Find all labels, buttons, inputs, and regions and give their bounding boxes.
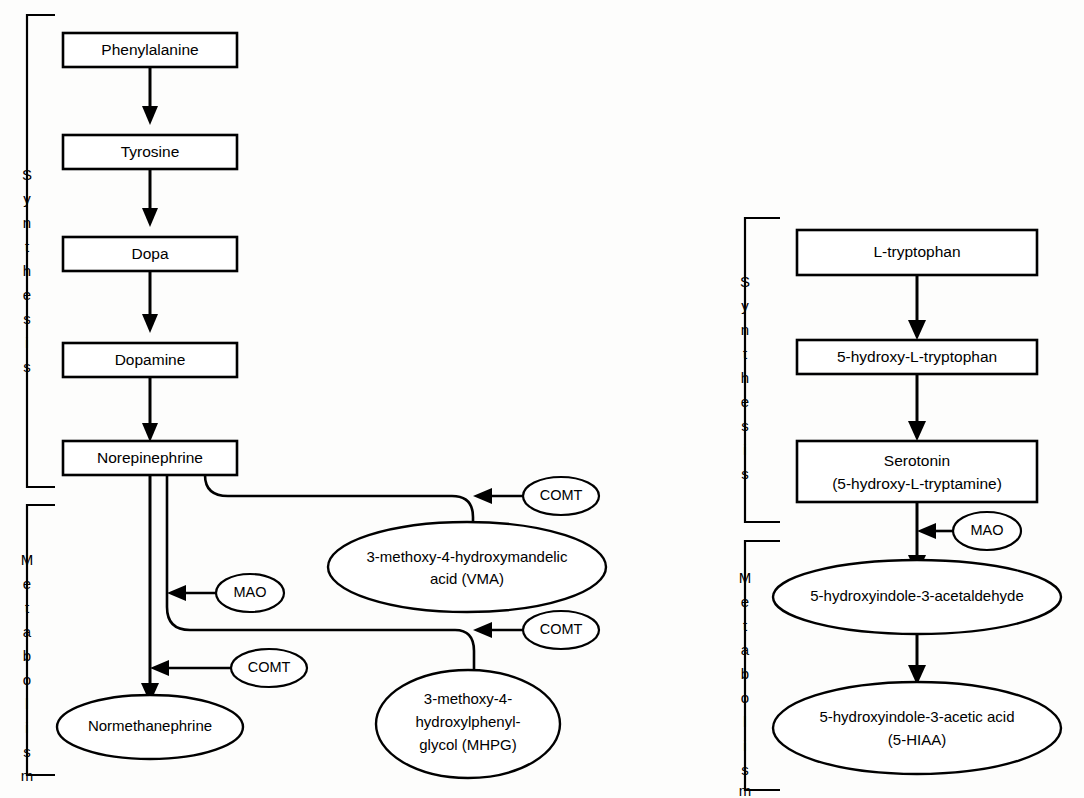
left-synthesis-letter-3: t [25, 238, 30, 255]
left-synthesis-letter-6: s [23, 310, 31, 327]
right-metabolism-letter-6: l [743, 713, 746, 730]
node-vma-label-line2: acid (VMA) [430, 570, 504, 587]
right-metabolism-letter-1: e [741, 593, 749, 610]
enzyme-comt-mhpg-label: COMT [540, 621, 583, 637]
right-synthesis-letter-0: S [740, 273, 750, 290]
node-tyrosine-label: Tyrosine [121, 143, 180, 160]
left-synthesis-letter-5: e [23, 286, 31, 303]
right-synthesis-letter-3: t [743, 345, 748, 362]
node-phenylalanine[interactable]: Phenylalanine [63, 33, 237, 67]
left-synthesis-letter-4: h [23, 262, 31, 279]
figure-canvas: S y n t h e s i s M e t a b o l i s m [0, 0, 1084, 798]
right-metabolism-letter-3: a [741, 641, 750, 658]
node-serotonin[interactable]: Serotonin (5-hydroxy-L-tryptamine) [797, 441, 1037, 502]
node-mhpg-label-line1: 3-methoxy-4- [424, 690, 512, 707]
left-metabolism-letter-7: i [25, 719, 28, 736]
left-metabolism-bracket: M e t a b o l i s m [21, 505, 55, 784]
right-metabolism-bracket: M e t a b o l i s m [739, 541, 780, 798]
node-mhpg[interactable]: 3-methoxy-4- hydroxylphenyl- glycol (MHP… [376, 670, 560, 778]
node-norepinephrine-label: Norepinephrine [97, 449, 203, 466]
node-vma[interactable]: 3-methoxy-4-hydroxymandelic acid (VMA) [328, 522, 606, 612]
right-synthesis-letter-2: n [741, 321, 749, 338]
pathway-diagram: S y n t h e s i s M e t a b o l i s m [0, 0, 1084, 798]
node-tyrosine[interactable]: Tyrosine [63, 135, 237, 169]
node-5-hiaa-label-line1: 5-hydroxyindole-3-acetic acid [819, 708, 1014, 725]
enzyme-comt-normetanephrine[interactable]: COMT [231, 649, 307, 687]
left-metabolism-letter-2: t [25, 599, 30, 616]
enzyme-comt-vma-label: COMT [540, 487, 583, 503]
right-synthesis-letter-6: s [741, 417, 749, 434]
right-metabolism-letter-8: s [741, 761, 749, 778]
node-l-tryptophan-label: L-tryptophan [873, 243, 960, 260]
node-5-hydroxyindole-3-acetaldehyde-label: 5-hydroxyindole-3-acetaldehyde [810, 587, 1023, 604]
right-synthesis-letter-7: i [743, 441, 746, 458]
node-5-hiaa[interactable]: 5-hydroxyindole-3-acetic acid (5-HIAA) [773, 682, 1061, 774]
node-dopamine[interactable]: Dopamine [63, 343, 237, 377]
node-dopa-label: Dopa [131, 245, 168, 262]
node-5-hiaa-label-line2: (5-HIAA) [888, 731, 946, 748]
right-synthesis-letter-1: y [741, 297, 749, 314]
left-metabolism-letter-1: e [23, 575, 31, 592]
right-synthesis-bracket: S y n t h e s i s [740, 218, 780, 522]
right-metabolism-letter-9: m [739, 782, 752, 798]
left-synthesis-letter-2: n [23, 214, 31, 231]
right-metabolism-letter-2: t [743, 617, 748, 634]
right-metabolism-letter-0: M [739, 569, 752, 586]
node-5-hydroxy-l-tryptophan[interactable]: 5-hydroxy-L-tryptophan [797, 340, 1037, 374]
left-synthesis-letter-1: y [23, 190, 31, 207]
left-synthesis-letter-8: s [23, 358, 31, 375]
node-dopamine-label: Dopamine [115, 351, 186, 368]
enzyme-comt-mhpg[interactable]: COMT [523, 611, 599, 649]
node-norepinephrine[interactable]: Norepinephrine [63, 441, 237, 475]
right-synthesis-letter-5: e [741, 393, 749, 410]
enzyme-comt-normetanephrine-label: COMT [248, 659, 291, 675]
right-metabolism-letter-4: b [741, 665, 749, 682]
enzyme-mao-right[interactable]: MAO [953, 512, 1021, 550]
node-mhpg-label-line3: glycol (MHPG) [419, 736, 517, 753]
left-metabolism-letter-8: s [23, 743, 31, 760]
node-normetanephrine-label: Normethanephrine [88, 717, 212, 734]
right-metabolism-letter-5: o [741, 689, 749, 706]
node-normetanephrine[interactable]: Normethanephrine [57, 695, 243, 759]
right-synthesis-letter-4: h [741, 369, 749, 386]
left-metabolism-letter-4: b [23, 647, 31, 664]
left-metabolism-letter-9: m [21, 767, 34, 784]
node-vma-label-line1: 3-methoxy-4-hydroxymandelic [367, 548, 568, 565]
left-synthesis-letter-0: S [22, 166, 32, 183]
node-5-hydroxy-l-tryptophan-label: 5-hydroxy-L-tryptophan [837, 348, 997, 365]
enzyme-comt-vma[interactable]: COMT [523, 477, 599, 515]
left-synthesis-bracket: S y n t h e s i s [22, 15, 55, 487]
node-l-tryptophan[interactable]: L-tryptophan [797, 230, 1037, 275]
node-mhpg-label-line2: hydroxylphenyl- [415, 713, 520, 730]
node-serotonin-label-line2: (5-hydroxy-L-tryptamine) [832, 475, 1002, 492]
node-phenylalanine-label: Phenylalanine [101, 41, 198, 58]
enzyme-mao-left[interactable]: MAO [216, 574, 284, 612]
node-dopa[interactable]: Dopa [63, 237, 237, 271]
left-metabolism-letter-3: a [23, 623, 32, 640]
node-serotonin-label-line1: Serotonin [884, 452, 950, 469]
left-metabolism-letter-0: M [21, 551, 34, 568]
enzyme-mao-right-label: MAO [970, 522, 1003, 538]
right-metabolism-letter-7: i [743, 737, 746, 754]
right-synthesis-letter-8: s [741, 465, 749, 482]
left-synthesis-letter-7: i [25, 334, 28, 351]
enzyme-mao-left-label: MAO [233, 584, 266, 600]
left-metabolism-letter-6: l [25, 695, 28, 712]
node-5-hydroxyindole-3-acetaldehyde[interactable]: 5-hydroxyindole-3-acetaldehyde [773, 560, 1061, 634]
left-metabolism-letter-5: o [23, 671, 31, 688]
